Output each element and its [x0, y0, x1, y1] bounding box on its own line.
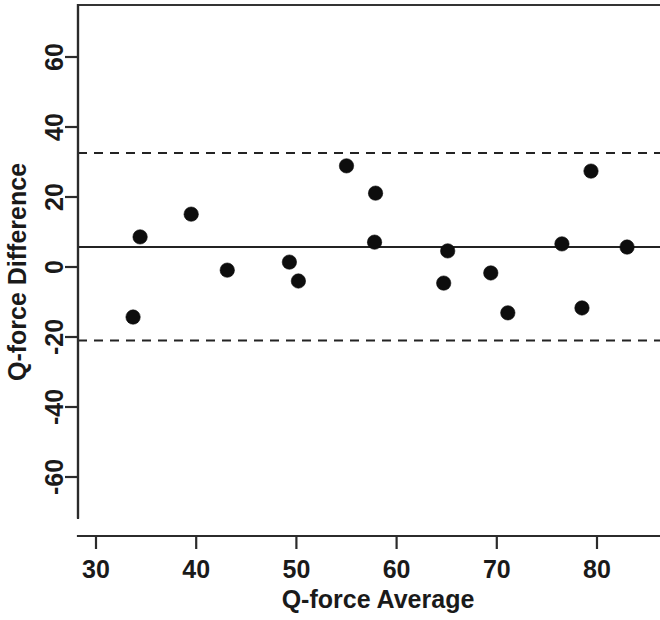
- data-point: [584, 164, 598, 178]
- data-point: [339, 159, 353, 173]
- data-point: [620, 240, 634, 254]
- data-point: [575, 301, 589, 315]
- plot-frame-border: [78, 5, 660, 518]
- x-axis-tick-labels: 304050607080: [82, 555, 611, 583]
- data-point: [220, 263, 234, 277]
- x-tick-label-30: 30: [82, 555, 110, 583]
- data-point: [555, 237, 569, 251]
- x-tick-label-40: 40: [182, 555, 210, 583]
- bland-altman-plot: 304050607080 6040200-20-40-60 Q-force Av…: [0, 0, 660, 620]
- data-point: [184, 207, 198, 221]
- data-point: [126, 310, 140, 324]
- y-tick-label--60: -60: [40, 459, 68, 495]
- data-points: [126, 159, 634, 325]
- y-axis-title: Q-force Difference: [3, 163, 31, 381]
- x-tick-label-70: 70: [483, 555, 511, 583]
- data-point: [501, 306, 515, 320]
- data-point: [133, 230, 147, 244]
- y-axis: 6040200-20-40-60: [40, 5, 78, 518]
- data-point: [282, 255, 296, 269]
- y-tick-label--20: -20: [40, 319, 68, 355]
- x-axis-title: Q-force Average: [282, 585, 475, 613]
- y-tick-label-0: 0: [40, 260, 68, 274]
- x-tick-label-60: 60: [383, 555, 411, 583]
- y-axis-tick-labels: 6040200-20-40-60: [40, 43, 68, 495]
- y-tick-label-20: 20: [40, 183, 68, 211]
- data-point: [484, 266, 498, 280]
- plot-frame: [78, 5, 660, 518]
- x-axis-ticks: [96, 536, 597, 549]
- y-tick-label-60: 60: [40, 43, 68, 71]
- x-axis: 304050607080: [78, 536, 660, 583]
- data-point: [436, 276, 450, 290]
- data-point: [291, 274, 305, 288]
- plot-canvas: 304050607080 6040200-20-40-60 Q-force Av…: [0, 0, 660, 620]
- data-point: [368, 186, 382, 200]
- y-tick-label--40: -40: [40, 389, 68, 425]
- x-tick-label-50: 50: [282, 555, 310, 583]
- data-point: [441, 244, 455, 258]
- data-point: [367, 235, 381, 249]
- y-tick-label-40: 40: [40, 113, 68, 141]
- x-tick-label-80: 80: [583, 555, 611, 583]
